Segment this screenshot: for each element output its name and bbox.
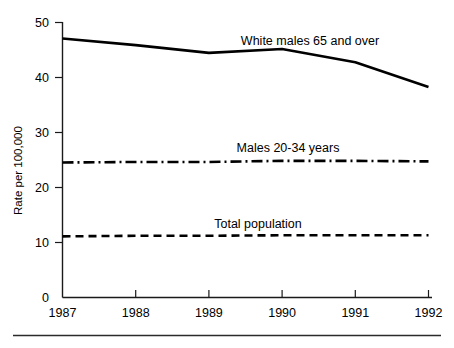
chart-figure: 50 40 30 20 10 0 Rate per 100,000 1987 1… (0, 0, 454, 348)
y-tick-label-20: 20 (35, 181, 49, 195)
x-tick-label-1992: 1992 (415, 306, 443, 320)
x-tick-label-1988: 1988 (122, 306, 150, 320)
y-tick-label-50: 50 (35, 16, 49, 30)
series-label-males-20-34-years: Males 20-34 years (237, 141, 340, 155)
line-chart: 50 40 30 20 10 0 Rate per 100,000 1987 1… (0, 0, 454, 348)
x-tick-label-1989: 1989 (195, 306, 223, 320)
y-tick-label-10: 10 (35, 236, 49, 250)
y-tick-label-40: 40 (35, 71, 49, 85)
x-tick-label-1987: 1987 (49, 306, 77, 320)
y-tick-label-0: 0 (42, 291, 49, 305)
series-label-white-males-65-and-over: White males 65 and over (241, 34, 379, 48)
series-label-total-population: Total population (214, 217, 302, 231)
y-axis-title: Rate per 100,000 (12, 126, 24, 215)
x-tick-label-1991: 1991 (341, 306, 369, 320)
x-tick-label-1990: 1990 (268, 306, 296, 320)
y-tick-label-30: 30 (35, 126, 49, 140)
